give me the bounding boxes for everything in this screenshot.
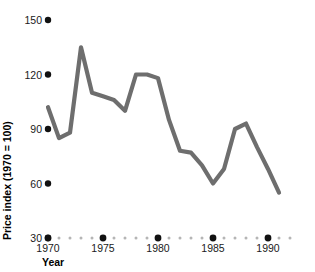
x-minor-tick-dot <box>179 237 182 240</box>
x-minor-tick-dot <box>146 237 149 240</box>
x-minor-tick-dot <box>190 237 193 240</box>
x-tick-label: 1990 <box>256 242 280 254</box>
x-minor-tick-dot <box>256 237 259 240</box>
x-minor-tick-dot <box>201 237 204 240</box>
x-minor-tick-dot <box>113 237 116 240</box>
x-tick-dot <box>45 235 52 242</box>
x-minor-tick-dot <box>289 237 292 240</box>
x-tick-label: 1980 <box>146 242 170 254</box>
y-tick-label: 150 <box>24 14 42 26</box>
y-tick-dot <box>45 17 51 23</box>
x-minor-tick-dot <box>278 237 281 240</box>
y-tick-dot <box>45 71 51 77</box>
x-minor-tick-dot <box>69 237 72 240</box>
x-tick-dot <box>265 235 272 242</box>
x-tick-label: 1975 <box>91 242 115 254</box>
y-axis-title: Price index (1970 = 100) <box>1 121 13 240</box>
x-minor-tick-dot <box>135 237 138 240</box>
x-minor-tick-dot <box>58 237 61 240</box>
chart-background <box>0 0 315 272</box>
x-tick-label: 1970 <box>36 242 60 254</box>
x-minor-tick-dot <box>124 237 127 240</box>
x-minor-tick-dot <box>91 237 94 240</box>
y-tick-label: 60 <box>30 178 42 190</box>
x-axis-title: Year <box>42 256 64 268</box>
x-minor-tick-dot <box>80 237 83 240</box>
line-chart: 306090120150 19701975198019851990 Year P… <box>0 0 315 272</box>
x-tick-dot <box>100 235 107 242</box>
x-minor-tick-dot <box>245 237 248 240</box>
x-tick-dot <box>210 235 217 242</box>
y-tick-label: 120 <box>24 69 42 81</box>
x-tick-dot <box>155 235 162 242</box>
x-tick-label: 1985 <box>201 242 225 254</box>
y-tick-dot <box>45 180 51 186</box>
y-tick-label: 90 <box>30 123 42 135</box>
y-tick-dot <box>45 126 51 132</box>
x-minor-tick-dot <box>223 237 226 240</box>
chart-container: 306090120150 19701975198019851990 Year P… <box>0 0 315 272</box>
x-minor-tick-dot <box>168 237 171 240</box>
x-minor-tick-dot <box>234 237 237 240</box>
